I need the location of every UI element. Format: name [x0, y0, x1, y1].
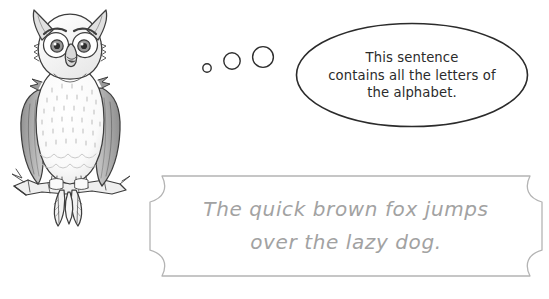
thought-dot-medium: [224, 53, 240, 69]
pangram-banner: The quick brown fox jumps over the lazy …: [146, 172, 546, 280]
speech-bubble: This sentence contains all the letters o…: [295, 22, 529, 128]
thought-trail-vector: [196, 40, 292, 86]
thought-trail: [196, 40, 292, 86]
speech-bubble-text: This sentence contains all the letters o…: [313, 49, 511, 102]
owl-vector: [8, 4, 132, 232]
owl-tail-feathers: [54, 190, 82, 226]
owl-beak: [65, 44, 77, 67]
thought-dot-small: [203, 64, 211, 72]
owl-eye-left: [44, 33, 69, 58]
thought-dot-large: [253, 47, 274, 68]
worksheet-canvas: This sentence contains all the letters o…: [0, 0, 549, 299]
owl-illustration: [8, 4, 132, 232]
pangram-banner-text: The quick brown fox jumps over the lazy …: [172, 193, 520, 259]
